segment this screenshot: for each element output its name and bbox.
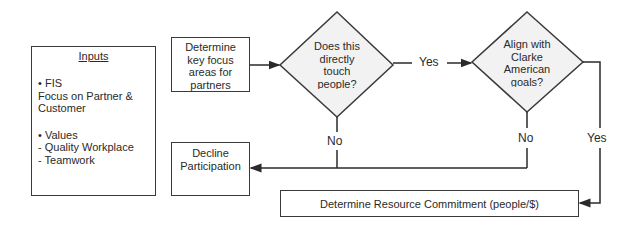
decline-line: Participation (172, 160, 249, 173)
focus-line: key focus (172, 54, 249, 67)
decision2-line: Clarke (487, 51, 567, 64)
decline-line: Decline (172, 147, 249, 160)
resource-text: Determine Resource Commitment (people/$) (281, 198, 578, 211)
focus-line: areas for (172, 66, 249, 79)
inputs-bullet-values: • Values (38, 129, 134, 142)
inputs-content: • FIS Focus on Partner & Customer • Valu… (38, 77, 134, 166)
decision2-line: goals? (487, 76, 567, 87)
focus-line: Determine (172, 41, 249, 54)
inputs-line: Customer (38, 102, 134, 115)
decision1-line: touch (297, 65, 377, 78)
decision1-line: Does this (297, 40, 377, 53)
determine-focus-box: Determine key focus areas for partners (171, 37, 250, 92)
inputs-line: - Quality Workplace (38, 141, 134, 154)
edge-label-d2-no: No (516, 131, 535, 145)
edge-label-d2-yes: Yes (585, 131, 609, 145)
decision1-text: Does this directly touch people? (297, 40, 377, 89)
edge-label-d1-no: No (325, 134, 344, 148)
inputs-title: Inputs (32, 50, 155, 62)
inputs-box: Inputs • FIS Focus on Partner & Customer… (31, 46, 156, 196)
edge-label-d1-yes: Yes (417, 55, 441, 69)
inputs-line: Focus on Partner & (38, 90, 134, 103)
decline-participation-box: Decline Participation (171, 142, 250, 196)
decision1-line: people? (297, 78, 377, 89)
inputs-bullet-fis: • FIS (38, 77, 134, 90)
decision2-line: American (487, 63, 567, 76)
resource-commitment-box: Determine Resource Commitment (people/$) (280, 190, 579, 217)
decision2-line: Align with (487, 38, 567, 51)
inputs-line: - Teamwork (38, 154, 134, 167)
decision1-line: directly (297, 53, 377, 66)
focus-line: partners (172, 79, 249, 92)
decision2-text: Align with Clarke American goals? (487, 38, 567, 87)
